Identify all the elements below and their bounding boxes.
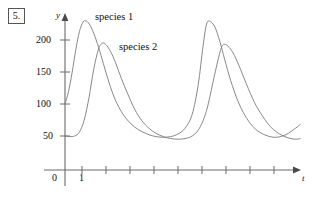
- figure-container: 5. 200 150 100: [0, 0, 313, 203]
- curve-species-2: [65, 43, 300, 139]
- series-label-species-1: species 1: [95, 11, 133, 22]
- x-tick-label-0: 0: [52, 172, 57, 183]
- x-axis-label: t: [302, 173, 305, 183]
- y-tick-label-100: 100: [36, 98, 51, 109]
- y-axis-arrow-icon: [62, 13, 69, 21]
- x-tick-label-1: 1: [79, 172, 84, 183]
- series-label-species-2: species 2: [119, 41, 157, 52]
- y-tick-label-150: 150: [36, 66, 51, 77]
- y-tick-label-50: 50: [43, 130, 53, 141]
- y-axis-label: y: [56, 10, 60, 20]
- y-tick-label-200: 200: [36, 34, 51, 45]
- x-axis-arrow-icon: [293, 167, 301, 174]
